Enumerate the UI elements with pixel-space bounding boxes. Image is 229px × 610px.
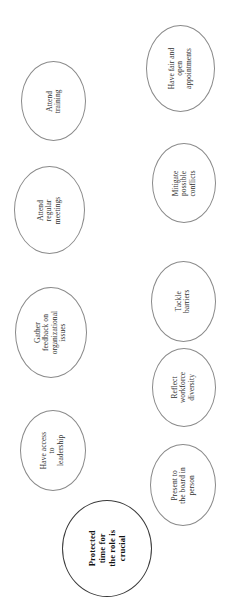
node-gather-feedback[interactable]: Gatherfeedback onorganizationalissues — [15, 287, 87, 378]
node-label: Tacklebarriers — [175, 290, 192, 313]
node-label: Attendtraining — [45, 89, 62, 113]
node-central-protected-time[interactable]: Protectedtime forthe role iscrucial — [62, 500, 152, 597]
node-label: Present tothe board inperson — [171, 467, 196, 504]
node-attend-training[interactable]: Attendtraining — [21, 61, 86, 141]
node-mitigate-possible-conflicts[interactable]: Mitigatepossibleconflicts — [152, 143, 216, 223]
node-label: Reflectworkforcediversity — [172, 372, 197, 403]
node-attend-regular-meetings[interactable]: Attendregularmeetings — [14, 166, 85, 254]
node-have-fair-and-open-appointments[interactable]: Have fair andopenappointments — [146, 25, 215, 112]
node-tackle-barriers[interactable]: Tacklebarriers — [151, 261, 216, 342]
node-label: Mitigatepossibleconflicts — [172, 170, 197, 196]
node-reflect-workforce-diversity[interactable]: Reflectworkforcediversity — [152, 348, 216, 427]
node-label: Attendregularmeetings — [37, 196, 62, 223]
node-label: Have fair andopenappointments — [168, 48, 193, 90]
node-label: Have accesstoleadership — [41, 432, 66, 469]
diagram-canvas: Attendtraining Attendregularmeetings Gat… — [0, 0, 229, 610]
central-node-label: Protectedtime forthe role iscrucial — [87, 530, 128, 567]
node-have-access-to-leadership[interactable]: Have accesstoleadership — [20, 410, 86, 491]
node-label: Gatherfeedback onorganizationalissues — [34, 311, 67, 355]
node-present-to-the-board-in-person[interactable]: Present tothe board inperson — [150, 444, 216, 526]
